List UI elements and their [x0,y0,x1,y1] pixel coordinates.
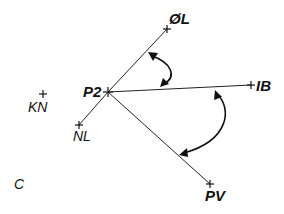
arrowhead-icon [160,78,169,87]
arrowhead-icon [148,52,158,61]
kn-cross-marker [39,90,47,98]
angle-arc-ol-ib [148,52,171,87]
angle-arc-ib-pv [179,90,225,157]
ray-p2-pv [108,92,210,184]
angle-diagram: P2 ØL IB PV NL KN C [0,0,284,214]
ib-cross-marker [247,81,255,89]
label-p2: P2 [83,83,102,100]
ray-p2-ib [108,85,251,92]
ray-p2-ol [108,29,167,92]
corner-label-c: C [14,176,25,192]
label-nl: NL [73,128,91,144]
arrowhead-icon [179,148,188,157]
label-ol: ØL [169,10,190,27]
label-kn: KN [28,99,48,115]
label-pv: PV [205,187,227,204]
label-ib: IB [256,77,271,94]
